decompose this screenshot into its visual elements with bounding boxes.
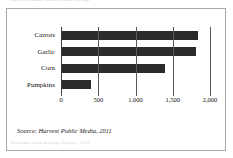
y-axis-label-carrots: Carrots	[34, 27, 55, 44]
x-axis-tick-label: 1,500	[165, 96, 180, 103]
bar	[61, 31, 198, 40]
plot-area	[61, 27, 210, 93]
y-axis-label-corn: Corn	[41, 60, 55, 77]
x-axis-tick-label: 0	[59, 96, 62, 103]
x-axis-tick-label: 1,000	[128, 96, 143, 103]
bar	[61, 64, 165, 73]
bar-row	[61, 60, 165, 77]
bar	[61, 80, 91, 89]
bar-row	[61, 77, 91, 94]
y-axis-label-garlic: Garlic	[38, 44, 56, 61]
bar-row	[61, 27, 198, 44]
running-head: Harvest Public Media report excerpt	[10, 0, 90, 3]
running-foot: Nebraska farm acreage figures, 2011	[10, 140, 91, 146]
x-axis-tick-label: 2,000	[203, 96, 218, 103]
gridline	[210, 27, 211, 93]
gridline	[173, 27, 174, 93]
bar	[61, 47, 196, 56]
y-axis-line	[61, 27, 62, 93]
y-axis-label-pumpkins: Pumpkins	[27, 77, 55, 94]
figure-container: CarrotsGarlicCornPumpkins 05001,0001,500…	[6, 8, 226, 151]
bar-row	[61, 44, 196, 61]
x-axis-tick-label: 500	[93, 96, 103, 103]
y-axis-category-labels: CarrotsGarlicCornPumpkins	[7, 27, 59, 93]
gridline	[98, 27, 99, 93]
x-axis-tick-labels: 05001,0001,5002,000	[61, 96, 210, 106]
source-note: Source: Harvest Public Media, 2011	[17, 127, 112, 134]
gridline	[136, 27, 137, 93]
